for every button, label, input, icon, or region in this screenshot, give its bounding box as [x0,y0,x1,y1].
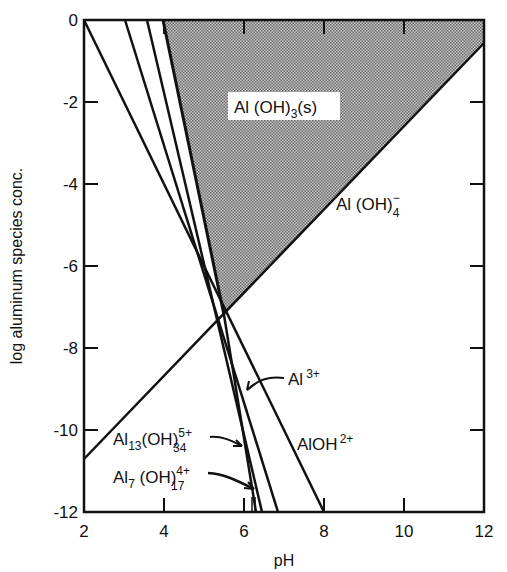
svg-text:-8: -8 [63,339,78,358]
y-tick-labels: 0 -2 -4 -6 -8 -10 -12 [53,11,78,522]
y-axis-title: log aluminum species conc. [8,168,25,365]
svg-text:12: 12 [475,522,494,541]
x-axis-title: pH [274,552,294,569]
aluminum-solubility-chart: 2 4 6 8 10 12 0 -2 -4 -6 -8 -10 -12 pH l… [0,0,507,572]
label-al13: Al13(OH)5+34 [113,426,192,455]
svg-text:0: 0 [69,11,78,30]
svg-text:4: 4 [159,522,168,541]
label-al-oh4: Al (OH)−4 [336,191,400,220]
svg-text:-2: -2 [63,93,78,112]
svg-text:10: 10 [395,522,414,541]
svg-text:-10: -10 [53,421,78,440]
svg-text:8: 8 [319,522,328,541]
svg-text:-4: -4 [63,175,78,194]
arrow-al3plus [247,378,284,391]
svg-text:2: 2 [79,522,88,541]
label-al3plus: Al3+ [288,367,320,389]
label-aloh2plus: AlOH2+ [297,432,353,454]
svg-text:6: 6 [239,522,248,541]
arrow-al7 [208,473,254,489]
svg-text:-6: -6 [63,257,78,276]
aluminum-hydroxide-solid-region [163,20,484,315]
svg-text:-12: -12 [53,503,78,522]
label-al7: Al7 (OH)4+17 [113,464,190,493]
x-tick-labels: 2 4 6 8 10 12 [79,522,493,541]
